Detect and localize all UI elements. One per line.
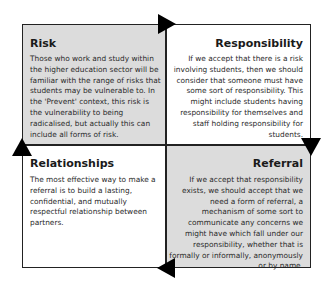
quadrant-risk: Risk Those who work and study within the…	[22, 24, 166, 145]
quadrant-title-risk: Risk	[30, 37, 56, 50]
arrow-down-icon	[301, 137, 321, 157]
arrow-right-icon	[157, 14, 177, 34]
quadrant-body-relationships: The most effective way to make a referra…	[30, 175, 162, 229]
horizontal-divider	[22, 144, 311, 146]
quadrant-relationships: Relationships The most effective way to …	[22, 145, 166, 268]
vertical-divider	[165, 24, 167, 268]
quadrant-body-risk: Those who work and study within the high…	[30, 54, 162, 140]
quadrant-responsibility: Responsibility If we accept that there i…	[166, 24, 311, 145]
quadrant-title-referral: Referral	[253, 157, 303, 170]
quadrant-body-responsibility: If we accept that there is a risk involv…	[167, 54, 303, 140]
quadrant-referral: Referral If we accept that responsibilit…	[166, 145, 311, 268]
quadrant-title-relationships: Relationships	[30, 157, 114, 170]
quadrant-title-responsibility: Responsibility	[215, 37, 303, 50]
quadrant-body-referral: If we accept that responsibility exists,…	[167, 175, 303, 272]
arrow-left-icon	[156, 258, 176, 278]
arrow-up-icon	[12, 137, 32, 157]
